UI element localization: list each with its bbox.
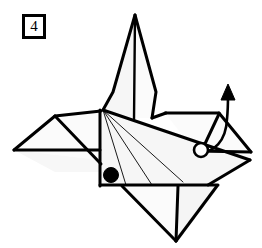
edge-tail-right xyxy=(176,186,178,241)
step-number-label: 4 xyxy=(30,19,38,34)
hollow-circle-marker xyxy=(194,143,208,157)
step-number-badge: 4 xyxy=(22,14,46,39)
filled-dot-marker xyxy=(104,168,119,183)
diagram-page: 4 xyxy=(0,0,262,248)
paper-panels xyxy=(14,15,250,240)
fold-arrow-head-icon xyxy=(221,84,235,100)
edge-head-center-crease xyxy=(134,16,135,120)
